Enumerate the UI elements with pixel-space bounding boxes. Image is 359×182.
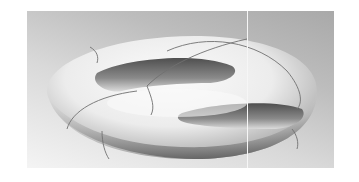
double-torus-render xyxy=(27,11,334,168)
rendered-image-panel xyxy=(27,11,334,168)
vertical-seam-line xyxy=(247,11,248,168)
